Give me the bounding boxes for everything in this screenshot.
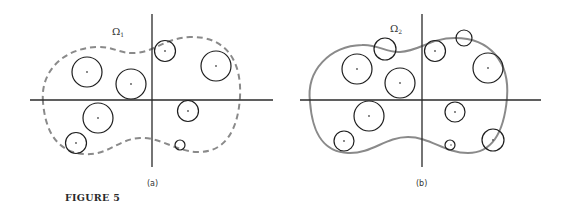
figure-caption: FIGURE 5 (65, 192, 120, 203)
figure-canvas: Ω1 (a) Ω2 (b) FIGURE 5 (0, 0, 564, 204)
panel-label-a: (a) (147, 179, 158, 188)
panel-b: Ω2 (b) (300, 14, 541, 188)
omega-label-a: Ω1 (112, 26, 124, 38)
panel-label-b: (b) (416, 179, 427, 188)
omega-label-b: Ω2 (390, 23, 402, 35)
disk-set (66, 41, 232, 154)
panel-a: Ω1 (a) (30, 14, 273, 188)
